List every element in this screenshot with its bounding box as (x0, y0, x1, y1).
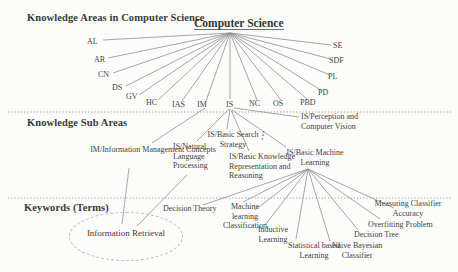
area-node-pbd: PBD (300, 98, 316, 108)
root-node-computer-science: Computer Science (194, 17, 284, 30)
keywords-section-heading: Keywords (Terms) (24, 202, 109, 213)
area-node-hc: HC (146, 98, 157, 108)
keyword-node-naive-bayesian-classifier: Naive Bayesian Classifier (329, 241, 385, 260)
knowledge-tree-diagram: Knowledge Areas in Computer Science Know… (0, 0, 458, 272)
area-node-ar: AR (94, 55, 105, 65)
area-node-pl: PL (328, 72, 337, 82)
area-node-pd: PD (318, 88, 328, 98)
area-node-ias: IAS (172, 100, 185, 110)
keyword-node-decision-theory: Decision Theory (163, 204, 216, 214)
sub-areas-section-heading: Knowledge Sub Areas (27, 117, 127, 128)
omitted-subareas-ellipsis: ⋮ (256, 128, 269, 142)
area-node-os: OS (273, 99, 283, 109)
subarea-node-basic-machine-learning: IS/Basic Machine Learning (282, 148, 348, 167)
area-node-is: IS (226, 100, 233, 110)
keyword-node-decision-tree: Decision Tree (354, 230, 399, 240)
subarea-node-perception-computer-vision: IS/Perception and Computer Vision (301, 112, 373, 131)
area-node-im: IM (197, 100, 207, 110)
area-node-nc: NC (249, 99, 260, 109)
area-node-ds: DS (112, 83, 122, 93)
area-node-gv: GV (126, 92, 138, 102)
keyword-node-overfitting-problem: Overfitting Problem (368, 220, 433, 230)
keyword-node-measuring-classifier-accuracy: Measuring Classifier Accuracy (368, 199, 448, 218)
keyword-node-information-retrieval: Information Retrieval (72, 228, 180, 238)
areas-section-heading: Knowledge Areas in Computer Science (27, 12, 205, 23)
area-node-sdf: SDF (329, 56, 344, 66)
area-node-se: SE (333, 41, 342, 51)
area-node-al: AL (87, 37, 98, 47)
area-node-cn: CN (98, 70, 109, 80)
